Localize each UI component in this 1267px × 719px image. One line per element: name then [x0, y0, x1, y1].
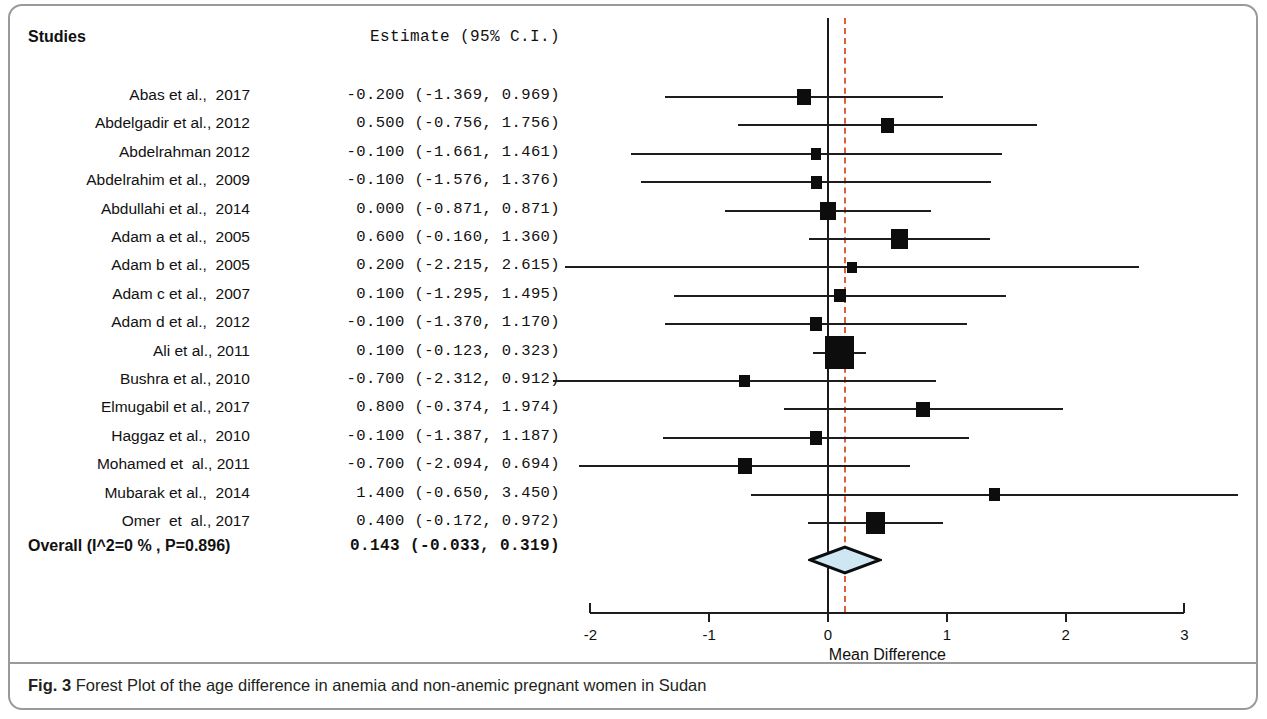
study-estimate: -0.700 (-2.312, 0.912) [275, 370, 560, 388]
point-estimate-marker [881, 118, 894, 133]
study-name: Abdullahi et al., 2014 [0, 200, 250, 218]
point-estimate-marker [811, 176, 822, 189]
study-name: Mubarak et al., 2014 [0, 484, 250, 502]
study-estimate: -0.700 (-2.094, 0.694) [275, 455, 560, 473]
x-axis-tick [1183, 603, 1185, 613]
study-name: Ali et al., 2011 [0, 342, 250, 360]
study-name: Abdelrahman 2012 [0, 143, 250, 161]
study-name: Omer et al., 2017 [0, 512, 250, 530]
figure-caption: Fig. 3 Forest Plot of the age difference… [28, 676, 706, 695]
x-axis-tick-label: -1 [689, 626, 729, 643]
column-header-estimate: Estimate (95% C.I.) [275, 28, 560, 46]
figure-page: Studies Estimate (95% C.I.) Abas et al.,… [0, 0, 1267, 719]
study-estimate: 0.500 (-0.756, 1.756) [275, 114, 560, 132]
study-name: Abas et al., 2017 [0, 86, 250, 104]
study-estimate: 0.400 (-0.172, 0.972) [275, 512, 560, 530]
point-estimate-marker [810, 431, 822, 445]
study-name: Abdelgadir et al., 2012 [0, 114, 250, 132]
point-estimate-marker [810, 317, 822, 331]
study-name: Adam c et al., 2007 [0, 285, 250, 303]
summary-diamond [808, 545, 882, 575]
x-axis-tick-label: 2 [1046, 626, 1086, 643]
point-estimate-marker [825, 336, 854, 369]
point-estimate-marker [891, 229, 908, 248]
point-estimate-marker [739, 375, 750, 388]
x-axis-tick [827, 612, 829, 622]
x-axis-tick [1065, 612, 1067, 622]
x-axis-line [590, 612, 1184, 614]
figure-number: Fig. 3 [28, 676, 71, 694]
study-estimate: 1.400 (-0.650, 3.450) [275, 484, 560, 502]
forest-plot: Studies Estimate (95% C.I.) Abas et al.,… [0, 0, 1267, 660]
x-axis-tick-label: 3 [1164, 626, 1204, 643]
study-estimate: 0.100 (-0.123, 0.323) [275, 342, 560, 360]
point-estimate-marker [797, 89, 811, 105]
x-axis-tick [946, 612, 948, 622]
study-estimate: 0.100 (-1.295, 1.495) [275, 285, 560, 303]
figure-caption-text: Forest Plot of the age difference in ane… [71, 676, 706, 694]
study-name: Elmugabil et al., 2017 [0, 398, 250, 416]
x-axis-tick [589, 603, 591, 613]
x-axis-tick [708, 612, 710, 622]
column-header-studies: Studies [28, 28, 268, 46]
study-name: Bushra et al., 2010 [0, 370, 250, 388]
study-estimate: -0.100 (-1.370, 1.170) [275, 313, 560, 331]
study-estimate: 0.800 (-0.374, 1.974) [275, 398, 560, 416]
x-axis-tick-label: -2 [570, 626, 610, 643]
overall-estimate: 0.143 (-0.033, 0.319) [275, 537, 560, 555]
point-estimate-marker [738, 458, 752, 474]
study-name: Adam d et al., 2012 [0, 313, 250, 331]
study-estimate: -0.100 (-1.661, 1.461) [275, 143, 560, 161]
point-estimate-marker [866, 512, 885, 534]
point-estimate-marker [811, 148, 822, 160]
point-estimate-marker [834, 289, 846, 302]
study-name: Haggaz et al., 2010 [0, 427, 250, 445]
overall-label: Overall (I^2=0 % , P=0.896) [28, 537, 288, 555]
study-name: Adam a et al., 2005 [0, 228, 250, 246]
study-estimate: 0.000 (-0.871, 0.871) [275, 200, 560, 218]
study-estimate: 0.600 (-0.160, 1.360) [275, 228, 560, 246]
point-estimate-marker [820, 202, 836, 220]
point-estimate-marker [916, 402, 929, 417]
study-estimate: -0.200 (-1.369, 0.969) [275, 86, 560, 104]
x-axis-tick-label: 1 [927, 626, 967, 643]
study-estimate: -0.100 (-1.387, 1.187) [275, 427, 560, 445]
point-estimate-marker [989, 488, 1000, 501]
study-name: Mohamed et al., 2011 [0, 455, 250, 473]
point-estimate-marker [847, 262, 857, 274]
study-name: Abdelrahim et al., 2009 [0, 171, 250, 189]
study-estimate: 0.200 (-2.215, 2.615) [275, 256, 560, 274]
caption-divider [10, 662, 1256, 664]
study-estimate: -0.100 (-1.576, 1.376) [275, 171, 560, 189]
study-name: Adam b et al., 2005 [0, 256, 250, 274]
forest-graph: -2-10123Mean Difference [540, 0, 1250, 660]
x-axis-tick-label: 0 [808, 626, 848, 643]
